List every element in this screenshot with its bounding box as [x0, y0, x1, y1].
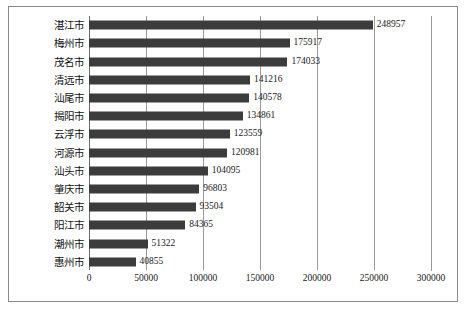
- bar: [89, 112, 243, 121]
- plot-area: 湛江市248957梅州市175917茂名市174033清远市141216汕尾市1…: [89, 16, 431, 271]
- x-axis-line: [89, 270, 431, 271]
- bar-row: 阳江市84365: [89, 216, 431, 234]
- bar-row: 惠州市40855: [89, 253, 431, 271]
- bar: [89, 257, 136, 266]
- bar: [89, 75, 250, 84]
- bar-value-label: 93504: [196, 202, 224, 212]
- bar: [89, 221, 185, 230]
- bar-value-label: 134861: [243, 111, 276, 121]
- bar-row: 汕头市104095: [89, 162, 431, 180]
- category-label: 梅州市: [54, 38, 84, 49]
- figure-caption: [0, 310, 468, 329]
- x-tick-label: 100000: [189, 274, 218, 284]
- category-label: 韶关市: [54, 202, 84, 213]
- x-tick-label: 250000: [360, 274, 389, 284]
- category-label: 揭阳市: [54, 111, 84, 122]
- x-tick-label: 300000: [417, 274, 446, 284]
- bar-value-label: 96803: [199, 184, 227, 194]
- x-tick-label: 150000: [246, 274, 275, 284]
- category-label: 汕头市: [54, 166, 84, 177]
- bar-row: 湛江市248957: [89, 16, 431, 34]
- bar-value-label: 123559: [230, 130, 263, 140]
- bar: [89, 148, 227, 157]
- bar: [89, 93, 249, 102]
- bar: [89, 203, 196, 212]
- bar-value-label: 174033: [287, 57, 320, 67]
- bar: [89, 130, 230, 139]
- bar-value-label: 141216: [250, 75, 283, 85]
- bar: [89, 185, 199, 194]
- bar-row: 清远市141216: [89, 71, 431, 89]
- category-label: 潮州市: [54, 238, 84, 249]
- category-label: 湛江市: [54, 20, 84, 31]
- x-tick-label: 0: [87, 274, 92, 284]
- bar-value-label: 40855: [136, 257, 164, 267]
- bar-value-label: 248957: [373, 20, 406, 30]
- bar: [89, 21, 373, 30]
- chart-frame: 湛江市248957梅州市175917茂名市174033清远市141216汕尾市1…: [8, 6, 458, 302]
- x-tick-label: 200000: [303, 274, 332, 284]
- bar-chart-figure: 湛江市248957梅州市175917茂名市174033清远市141216汕尾市1…: [0, 0, 468, 329]
- bar-row: 梅州市175917: [89, 34, 431, 52]
- bar-row: 潮州市51322: [89, 235, 431, 253]
- category-label: 云浮市: [54, 129, 84, 140]
- bar-row: 汕尾市140578: [89, 89, 431, 107]
- category-label: 阳江市: [54, 220, 84, 231]
- bar-row: 揭阳市134861: [89, 107, 431, 125]
- category-label: 茂名市: [54, 56, 84, 67]
- bar: [89, 166, 208, 175]
- category-label: 河源市: [54, 147, 84, 158]
- bar-row: 肇庆市96803: [89, 180, 431, 198]
- bar-row: 河源市120981: [89, 144, 431, 162]
- bar-value-label: 84365: [185, 221, 213, 231]
- bar-row: 云浮市123559: [89, 125, 431, 143]
- x-tick-label: 50000: [134, 274, 158, 284]
- category-label: 惠州市: [54, 257, 84, 268]
- bar-value-label: 104095: [208, 166, 241, 176]
- bar-value-label: 140578: [249, 93, 282, 103]
- bar: [89, 57, 287, 66]
- bar-value-label: 175917: [290, 39, 323, 49]
- bar: [89, 239, 148, 248]
- bar-row: 韶关市93504: [89, 198, 431, 216]
- category-label: 清远市: [54, 74, 84, 85]
- gridline-300000: [431, 16, 432, 271]
- category-label: 肇庆市: [54, 184, 84, 195]
- bar-value-label: 120981: [227, 148, 260, 158]
- bar: [89, 39, 290, 48]
- bar-value-label: 51322: [148, 239, 176, 249]
- bar-row: 茂名市174033: [89, 52, 431, 70]
- category-label: 汕尾市: [54, 93, 84, 104]
